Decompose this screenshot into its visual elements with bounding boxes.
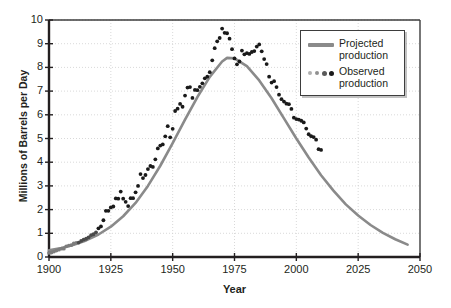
data-point-observed [183, 94, 187, 98]
data-point-observed [240, 49, 244, 53]
x-tick-label: 1975 [210, 263, 260, 275]
data-point-observed [131, 196, 135, 200]
data-point-observed [257, 43, 261, 47]
legend-label-observed: Observed production [339, 66, 388, 89]
x-tick-label: 2000 [271, 263, 321, 275]
data-point-observed [163, 134, 167, 138]
legend-label-projected: Projected production [339, 38, 388, 61]
data-point-observed [304, 127, 308, 131]
legend-item-observed: Observed production [308, 66, 388, 89]
y-tick-label: 7 [17, 84, 43, 96]
data-point-observed [124, 200, 128, 204]
data-point-observed [233, 56, 237, 60]
data-point-observed [289, 107, 293, 111]
data-point-observed [262, 57, 266, 61]
data-point-observed [200, 81, 204, 85]
data-point-observed [151, 165, 155, 169]
y-tick-label: 9 [17, 37, 43, 49]
data-point-observed [238, 60, 242, 64]
data-point-observed [111, 205, 115, 209]
y-tick-label: 4 [17, 155, 43, 167]
data-point-observed [176, 107, 180, 111]
data-point-observed [136, 184, 140, 188]
data-point-observed [191, 96, 195, 100]
data-point-observed [168, 135, 172, 139]
data-point-observed [272, 79, 276, 83]
data-point-observed [196, 88, 200, 92]
data-point-observed [144, 173, 148, 177]
y-tick-label: 10 [17, 13, 43, 25]
y-tick-label: 5 [17, 132, 43, 144]
y-tick-label: 0 [17, 250, 43, 262]
legend-item-projected: Projected production [308, 38, 388, 61]
y-tick-label: 3 [17, 179, 43, 191]
data-point-observed [213, 46, 217, 50]
x-tick-label: 2025 [333, 263, 383, 275]
data-point-observed [275, 85, 279, 89]
data-point-observed [260, 49, 264, 53]
y-tick-label: 2 [17, 203, 43, 215]
data-point-observed [252, 49, 256, 53]
data-point-observed [181, 105, 185, 109]
data-point-observed [198, 85, 202, 89]
data-point-observed [205, 75, 209, 79]
data-point-observed [277, 93, 281, 97]
data-point-observed [116, 197, 120, 201]
chart-container: Millions of Barrels per Day Year 1098765… [0, 0, 451, 308]
data-point-observed [210, 58, 214, 62]
data-point-observed [119, 190, 123, 194]
x-tick-label: 1925 [86, 263, 136, 275]
data-point-observed [218, 36, 222, 40]
data-point-observed [102, 218, 106, 222]
data-point-observed [139, 172, 143, 176]
data-point-observed [106, 209, 110, 213]
data-point-observed [188, 85, 192, 89]
data-point-observed [134, 190, 138, 194]
data-point-observed [220, 27, 224, 31]
x-tick-label: 2050 [395, 263, 445, 275]
data-point-observed [265, 62, 269, 66]
y-tick-label: 1 [17, 226, 43, 238]
line-swatch-icon [308, 43, 334, 47]
x-tick-label: 1950 [148, 263, 198, 275]
y-tick-label: 6 [17, 108, 43, 120]
data-point-observed [287, 102, 291, 106]
data-point-observed [166, 124, 170, 128]
data-point-observed [215, 39, 219, 43]
chart-legend: Projected production Observed production [300, 30, 405, 96]
data-point-observed [228, 37, 232, 41]
data-point-observed [94, 230, 98, 234]
data-point-observed [141, 176, 145, 180]
data-point-observed [146, 167, 150, 171]
data-point-observed [161, 143, 165, 147]
data-point-observed [171, 127, 175, 131]
data-point-observed [126, 204, 130, 208]
data-point-observed [99, 225, 103, 229]
data-point-observed [153, 157, 157, 161]
x-tick-label: 1900 [24, 263, 74, 275]
data-point-observed [230, 47, 234, 51]
data-point-observed [225, 31, 229, 35]
data-point-observed [267, 75, 271, 79]
y-tick-label: 8 [17, 60, 43, 72]
data-point-observed [208, 70, 212, 74]
dots-swatch-icon [308, 67, 334, 79]
data-point-observed [314, 138, 318, 142]
data-point-observed [319, 148, 323, 152]
data-point-observed [121, 197, 125, 201]
data-point-observed [302, 120, 306, 124]
